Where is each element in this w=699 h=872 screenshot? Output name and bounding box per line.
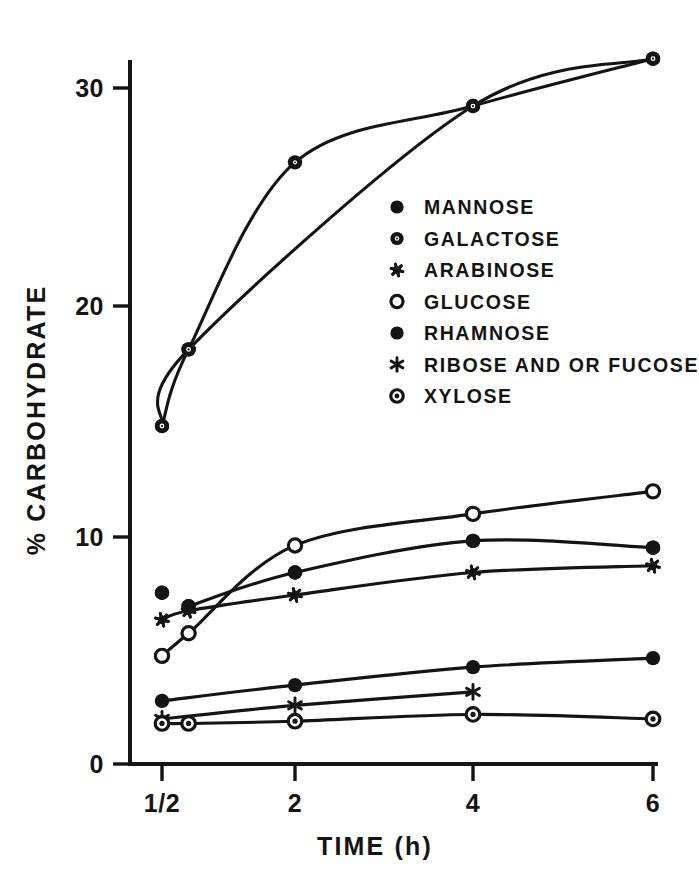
data-point-open-circle	[466, 507, 479, 520]
series-layer	[155, 52, 660, 731]
legend-label: RHAMNOSE	[424, 322, 551, 344]
y-tick-label-0: 0	[90, 750, 104, 778]
data-point-circle-dot	[466, 708, 480, 722]
series-mannose-markers	[155, 534, 660, 614]
data-point-small-star	[289, 589, 302, 602]
legend-item-rhamnose[interactable]: RHAMNOSE	[390, 322, 550, 344]
legend-marker-circle-dot	[391, 390, 404, 403]
data-point-circle-hatched	[181, 342, 195, 356]
x-tick-label-4: 4	[466, 789, 480, 817]
x-tick-label-half: 1/2	[144, 789, 180, 817]
data-point-filled-circle	[646, 540, 660, 554]
data-point-circle-hatched	[646, 52, 660, 66]
x-axis-title: TIME (h)	[317, 832, 433, 860]
legend-label: GALACTOSE	[424, 228, 560, 250]
legend-item-galactose[interactable]: GALACTOSE	[390, 228, 560, 250]
y-tick-label-20: 20	[75, 292, 104, 320]
axes-group	[130, 62, 656, 764]
legend-marker-small-star	[391, 264, 403, 276]
data-point-filled-circle	[288, 678, 302, 692]
data-point-small-star	[647, 559, 660, 572]
data-point-filled-circle	[155, 694, 169, 708]
carbohydrate-time-plot: 30 20 10 0 1/2 2 4 6 % CARBOHYDRATE TIME…	[0, 0, 699, 872]
legend-label: XYLOSE	[424, 385, 513, 407]
legend-item-arabinose[interactable]: ARABINOSE	[391, 259, 555, 281]
y-tick-label-30: 30	[75, 74, 104, 102]
series-galactose	[155, 52, 660, 434]
data-point-circle-hatched	[289, 156, 301, 168]
legend-label: RIBOSE AND OR FUCOSE	[424, 354, 699, 376]
data-point-circle-dot	[182, 717, 196, 731]
data-point-open-circle	[646, 485, 659, 498]
series-galactose-curve	[155, 52, 660, 434]
data-point-filled-circle	[155, 586, 169, 600]
legend-marker-filled-circle	[390, 200, 403, 213]
x-tick-label-6: 6	[646, 789, 660, 817]
series-mannose	[155, 534, 660, 614]
data-point-filled-circle	[288, 565, 302, 579]
data-point-filled-circle	[466, 660, 480, 674]
data-point-filled-circle	[181, 599, 195, 613]
data-point-open-circle	[288, 539, 301, 552]
legend-label: ARABINOSE	[424, 259, 555, 281]
series-curve	[162, 658, 653, 701]
data-point-filled-circle	[646, 651, 660, 665]
legend-label: GLUCOSE	[424, 291, 532, 313]
data-point-circle-dot	[646, 712, 660, 726]
y-tick-marks	[113, 88, 130, 764]
legend-marker-asterisk	[391, 358, 403, 372]
data-point-small-star	[156, 613, 169, 626]
legend-item-mannose[interactable]: MANNOSE	[390, 196, 534, 218]
series-curve	[162, 566, 653, 620]
chart-legend: MANNOSEGALACTOSEARABINOSEGLUCOSERHAMNOSE…	[390, 196, 699, 407]
y-tick-label-10: 10	[75, 523, 104, 551]
data-point-open-circle	[155, 649, 168, 662]
data-point-circle-hatched	[466, 99, 480, 113]
legend-marker-filled-circle	[390, 326, 403, 339]
legend-item-glucose[interactable]: GLUCOSE	[391, 291, 532, 313]
series-mannose-line	[189, 540, 653, 606]
data-point-circle-dot	[155, 717, 169, 731]
legend-item-ribose-and-or-fucose[interactable]: RIBOSE AND OR FUCOSE	[391, 354, 699, 376]
data-point-small-star	[467, 566, 480, 579]
data-point-circle-dot	[288, 714, 302, 728]
y-axis-title: % CARBOHYDRATE	[22, 285, 50, 556]
legend-item-xylose[interactable]: XYLOSE	[391, 385, 513, 407]
series-glucose	[155, 485, 659, 663]
legend-label: MANNOSE	[424, 196, 535, 218]
legend-marker-circle-hatched	[390, 232, 403, 245]
series-rhamnose	[155, 651, 660, 708]
series-curve	[162, 491, 653, 655]
data-point-circle-hatched	[155, 419, 169, 433]
data-point-open-circle	[182, 627, 195, 640]
data-point-filled-circle	[466, 534, 480, 548]
x-tick-marks	[162, 764, 653, 781]
x-tick-label-2: 2	[288, 789, 302, 817]
series-curve	[162, 714, 653, 723]
legend-marker-open-circle	[391, 295, 403, 307]
chart-figure: 30 20 10 0 1/2 2 4 6 % CARBOHYDRATE TIME…	[0, 0, 699, 872]
series-curve-mannose	[189, 540, 653, 606]
